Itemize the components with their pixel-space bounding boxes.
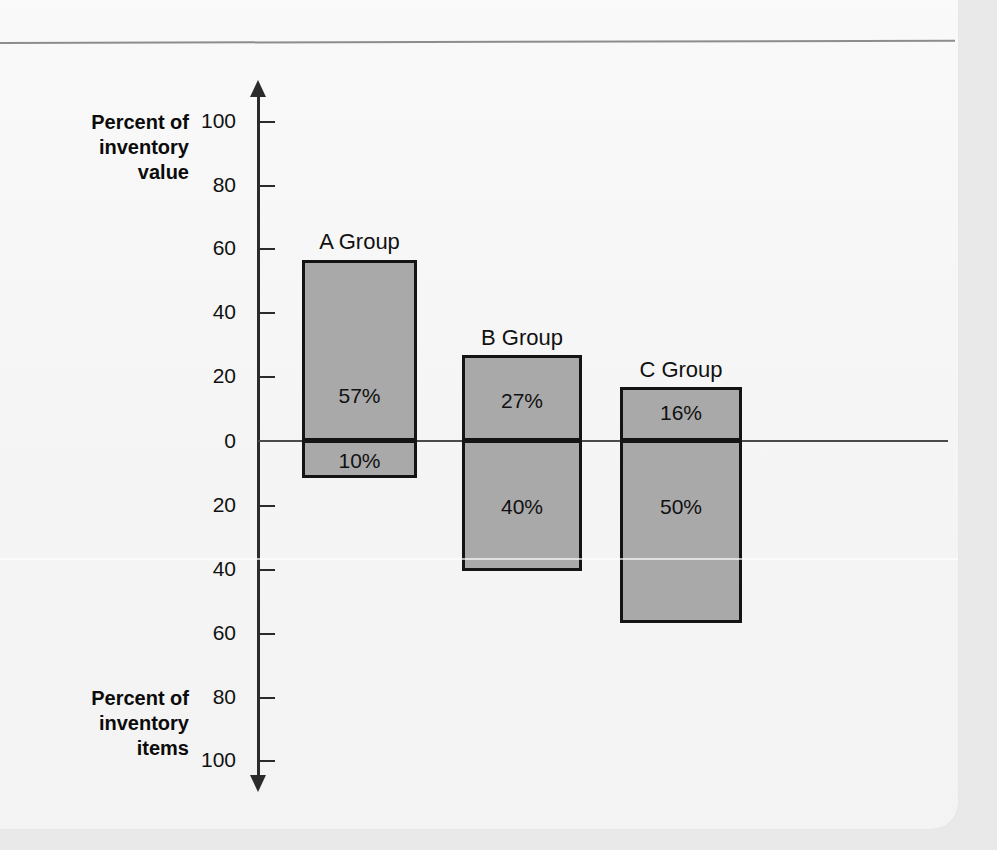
axis-caption-value-line-3: value [14, 160, 189, 185]
axis-tick-down-60 [260, 633, 275, 635]
bar-a-value[interactable] [302, 260, 417, 441]
axis-tick-label-up-60: 60 [180, 237, 236, 258]
bar-c-items[interactable] [620, 440, 742, 623]
axis-tick-label-up-40: 40 [180, 301, 236, 322]
bar-c-value-label: 16% [620, 402, 742, 423]
chart-page: 100 80 60 40 20 0 20 40 [0, 0, 997, 850]
chart-plot-area: 100 80 60 40 20 0 20 40 [0, 0, 958, 829]
axis-tick-label-down-60: 60 [180, 622, 236, 643]
axis-tick-up-80 [260, 185, 275, 187]
axis-tick-label-down-20: 20 [180, 494, 236, 515]
axis-tick-label-down-40: 40 [180, 558, 236, 579]
axis-tick-down-80 [260, 697, 275, 699]
axis-tick-up-20 [260, 376, 275, 378]
axis-arrow-down-icon [250, 775, 266, 792]
axis-tick-down-20 [260, 505, 275, 507]
axis-caption-value: Percent of inventory value [14, 110, 189, 185]
axis-caption-items: Percent of inventory items [14, 686, 189, 761]
bar-b-value-label: 27% [462, 390, 582, 411]
axis-caption-items-line-1: Percent of [14, 686, 189, 711]
group-title-c: C Group [620, 359, 742, 381]
axis-tick-down-40 [260, 569, 275, 571]
axis-caption-items-line-2: inventory [14, 711, 189, 736]
axis-tick-down-100 [260, 760, 275, 762]
axis-tick-label-up-20: 20 [180, 365, 236, 386]
group-title-a: A Group [302, 231, 417, 253]
group-title-b: B Group [462, 327, 582, 349]
axis-tick-label-zero: 0 [180, 430, 236, 451]
bar-a-value-label: 57% [302, 385, 417, 406]
bar-b-items-label: 40% [462, 496, 582, 517]
axis-caption-value-line-1: Percent of [14, 110, 189, 135]
axis-caption-value-line-2: inventory [14, 135, 189, 160]
vertical-axis-line [257, 93, 260, 783]
axis-tick-up-100 [260, 121, 275, 123]
bar-c-items-label: 50% [620, 496, 742, 517]
axis-tick-up-40 [260, 312, 275, 314]
bar-a-items-label: 10% [302, 450, 417, 471]
axis-tick-up-60 [260, 248, 275, 250]
axis-caption-items-line-3: items [14, 736, 189, 761]
